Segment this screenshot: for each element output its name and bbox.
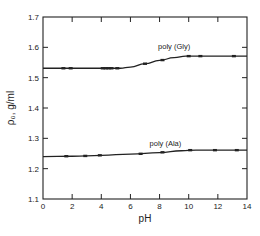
y-tick-label: 1.3 xyxy=(28,134,40,143)
x-tick-label: 12 xyxy=(213,202,222,211)
y-tick-label: 1.7 xyxy=(28,13,40,22)
data-point-marker xyxy=(160,59,164,61)
series-label: poly (Gly) xyxy=(158,42,191,51)
data-point-marker xyxy=(188,149,192,151)
data-point-marker xyxy=(213,149,217,151)
x-tick-label: 14 xyxy=(243,202,252,211)
data-point-marker xyxy=(160,151,164,153)
y-tick-label: 1.2 xyxy=(28,165,40,174)
data-point-marker xyxy=(232,55,236,57)
data-point-marker xyxy=(115,67,119,69)
y-tick-label: 1.1 xyxy=(28,195,40,204)
y-axis-label: ρ₀, g/ml xyxy=(5,91,16,125)
x-tick-label: 10 xyxy=(184,202,193,211)
data-point-marker xyxy=(69,67,73,69)
data-point-marker xyxy=(61,67,65,69)
x-tick-label: 8 xyxy=(157,202,162,211)
x-tick-label: 6 xyxy=(128,202,133,211)
y-axis-ticks: 1.11.21.31.41.51.61.7 xyxy=(28,13,247,204)
series-label: poly (Ala) xyxy=(150,139,182,148)
data-point-marker xyxy=(235,149,239,151)
y-tick-label: 1.5 xyxy=(28,74,40,83)
series-polyala: poly (Ala) xyxy=(43,139,247,158)
series-curve xyxy=(43,56,247,68)
x-axis-ticks: 02468101214 xyxy=(41,17,252,211)
x-tick-label: 0 xyxy=(41,202,46,211)
series-layer: poly (Gly)poly (Ala) xyxy=(43,42,247,158)
data-point-marker xyxy=(98,154,102,156)
density-vs-ph-chart: 02468101214 1.11.21.31.41.51.61.7 poly (… xyxy=(0,0,260,236)
x-axis-label: pH xyxy=(139,213,152,224)
y-tick-label: 1.6 xyxy=(28,43,40,52)
x-tick-label: 2 xyxy=(70,202,75,211)
plot-frame xyxy=(43,17,247,199)
data-point-marker xyxy=(109,67,113,69)
data-point-marker xyxy=(198,55,202,57)
plot-border xyxy=(43,17,247,199)
data-point-marker xyxy=(187,55,191,57)
data-point-marker xyxy=(139,153,143,155)
data-point-marker xyxy=(64,155,68,157)
data-point-marker xyxy=(83,155,87,157)
data-point-marker xyxy=(143,63,147,65)
y-tick-label: 1.4 xyxy=(28,104,40,113)
x-tick-label: 4 xyxy=(99,202,104,211)
series-polygly: poly (Gly) xyxy=(43,42,247,70)
